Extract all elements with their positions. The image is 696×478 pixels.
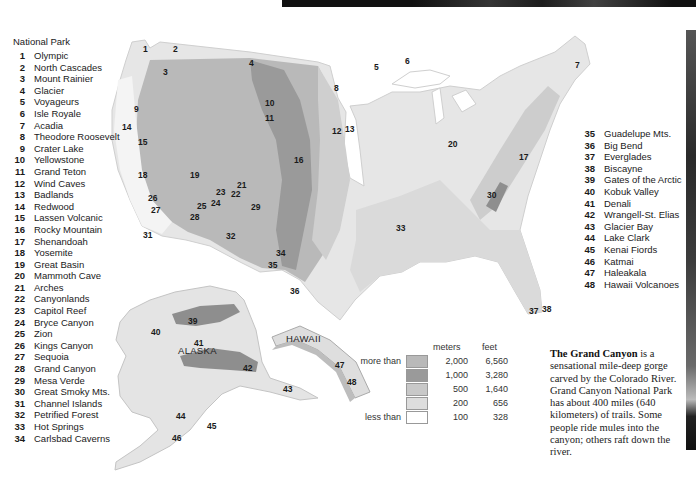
park-number: 47: [583, 267, 595, 279]
park-list-item: 16Rocky Mountain: [13, 224, 120, 236]
park-marker[interactable]: 47: [335, 360, 344, 370]
park-marker[interactable]: 20: [448, 139, 457, 149]
park-number: 21: [13, 282, 25, 294]
elevation-header-feet: feet: [482, 342, 497, 352]
park-list-item: 6Isle Royale: [13, 108, 120, 120]
park-marker[interactable]: 6: [405, 56, 410, 66]
park-number: 28: [13, 363, 25, 375]
park-marker[interactable]: 30: [487, 190, 496, 200]
park-number: 15: [13, 212, 25, 224]
park-name: Grand Teton: [34, 166, 86, 178]
park-number: 39: [583, 174, 595, 186]
park-name: Grand Canyon: [34, 363, 96, 375]
park-marker[interactable]: 32: [226, 231, 235, 241]
park-marker[interactable]: 33: [396, 223, 405, 233]
park-marker[interactable]: 3: [163, 67, 168, 77]
park-marker[interactable]: 29: [251, 202, 260, 212]
park-name: Olympic: [34, 50, 68, 62]
park-name: North Cascades: [34, 62, 102, 74]
park-name: Petrified Forest: [34, 409, 98, 421]
park-marker[interactable]: 27: [151, 205, 160, 215]
park-marker[interactable]: 14: [122, 122, 131, 132]
park-name: Glacier Bay: [604, 221, 653, 233]
park-list-item: 1Olympic: [13, 50, 120, 62]
park-list-item: 27Sequoia: [13, 351, 120, 363]
park-number: 18: [13, 247, 25, 259]
park-name: Rocky Mountain: [34, 224, 102, 236]
park-marker[interactable]: 16: [294, 155, 303, 165]
park-name: Arches: [34, 282, 64, 294]
park-marker[interactable]: 13: [345, 124, 354, 134]
park-list-item: 33Hot Springs: [13, 421, 120, 433]
park-marker[interactable]: 38: [542, 304, 551, 314]
park-number: 2: [13, 62, 25, 74]
park-marker[interactable]: 40: [151, 327, 160, 337]
elevation-row: more than 2,000 6,560: [355, 354, 508, 368]
park-marker[interactable]: 22: [231, 189, 240, 199]
park-name: Guadelupe Mts.: [604, 128, 671, 140]
park-marker[interactable]: 42: [243, 363, 252, 373]
park-marker[interactable]: 37: [529, 306, 538, 316]
park-marker[interactable]: 36: [290, 286, 299, 296]
park-name: Mammoth Cave: [34, 270, 101, 282]
park-number: 8: [13, 131, 25, 143]
park-name: Kings Canyon: [34, 340, 93, 352]
park-number: 22: [13, 293, 25, 305]
caption-body: is a sensational mile-deep gorge carved …: [550, 348, 676, 457]
park-list-item: 9Crater Lake: [13, 143, 120, 155]
park-marker[interactable]: 26: [148, 193, 157, 203]
park-marker[interactable]: 10: [265, 98, 274, 108]
park-marker[interactable]: 4: [249, 58, 254, 68]
park-marker[interactable]: 23: [216, 187, 225, 197]
park-marker[interactable]: 24: [211, 198, 220, 208]
park-marker[interactable]: 39: [188, 316, 197, 326]
park-marker[interactable]: 7: [575, 60, 580, 70]
park-marker[interactable]: 5: [374, 62, 379, 72]
park-name: Denali: [604, 198, 631, 210]
park-marker[interactable]: 1: [143, 44, 148, 54]
elevation-swatch: [406, 383, 428, 396]
park-marker[interactable]: 46: [172, 433, 181, 443]
park-marker[interactable]: 18: [138, 170, 147, 180]
park-number: 45: [583, 244, 595, 256]
park-number: 24: [13, 317, 25, 329]
park-marker[interactable]: 25: [197, 201, 206, 211]
park-list-item: 35Guadelupe Mts.: [583, 128, 682, 140]
park-name: Glacier: [34, 85, 64, 97]
park-marker[interactable]: 8: [334, 83, 339, 93]
park-marker[interactable]: 19: [190, 170, 199, 180]
park-marker[interactable]: 28: [190, 212, 199, 222]
park-list-item: 17Shenandoah: [13, 236, 120, 248]
park-marker[interactable]: 11: [265, 113, 274, 123]
park-number: 33: [13, 421, 25, 433]
park-marker[interactable]: 15: [138, 137, 147, 147]
park-marker[interactable]: 45: [207, 421, 216, 431]
park-name: Biscayne: [604, 163, 643, 175]
elevation-prefix: less than: [355, 412, 401, 422]
elevation-row: 500 1,640: [355, 382, 508, 396]
park-number: 17: [13, 236, 25, 248]
park-marker[interactable]: 41: [194, 338, 203, 348]
park-number: 37: [583, 151, 595, 163]
park-marker[interactable]: 34: [276, 248, 285, 258]
park-list-item: 18Yosemite: [13, 247, 120, 259]
park-marker[interactable]: 12: [332, 126, 341, 136]
park-marker[interactable]: 44: [176, 411, 185, 421]
park-number: 26: [13, 340, 25, 352]
park-list-item: 4Glacier: [13, 85, 120, 97]
park-marker[interactable]: 17: [519, 152, 528, 162]
park-list-item: 22Canyonlands: [13, 293, 120, 305]
park-list-item: 48Hawaii Volcanoes: [583, 279, 682, 291]
park-list-item: 26Kings Canyon: [13, 340, 120, 352]
park-number: 41: [583, 198, 595, 210]
park-marker[interactable]: 43: [283, 384, 292, 394]
park-name: Everglades: [604, 151, 652, 163]
park-list-item: 40Kobuk Valley: [583, 186, 682, 198]
park-marker[interactable]: 9: [134, 104, 139, 114]
park-number: 40: [583, 186, 595, 198]
elevation-feet: 1,640: [476, 384, 508, 394]
park-number: 7: [13, 120, 25, 132]
park-marker[interactable]: 2: [173, 44, 178, 54]
park-marker[interactable]: 31: [143, 230, 152, 240]
park-marker[interactable]: 35: [268, 260, 277, 270]
